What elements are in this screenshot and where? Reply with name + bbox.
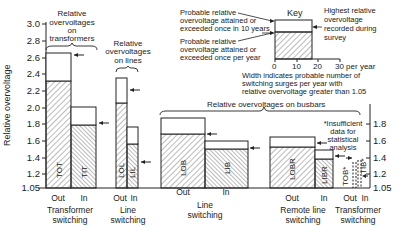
svg-text:overvoltages: overvoltages (105, 47, 150, 56)
heading-transformers: Relative overvoltages on transformers (46, 9, 97, 50)
svg-text:1.6: 1.6 (373, 135, 386, 146)
svg-text:2.4: 2.4 (27, 68, 40, 79)
y-axis-label: Relative overvoltage (2, 64, 12, 146)
svg-text:recorded during: recorded during (324, 24, 377, 33)
svg-text:switching: switching (111, 215, 146, 225)
svg-text:1.4: 1.4 (373, 152, 386, 163)
svg-text:Out: Out (176, 187, 190, 197)
heading-lines: Relative overvoltages on lines (105, 39, 150, 72)
bar-LIB: LIB (205, 141, 260, 188)
svg-text:1.4: 1.4 (27, 152, 40, 163)
svg-text:1.6: 1.6 (27, 135, 40, 146)
svg-text:Highest relative: Highest relative (324, 6, 376, 15)
svg-text:2.8: 2.8 (27, 35, 40, 46)
heading-busbars: Relative overvoltages on busbars (160, 100, 360, 115)
svg-text:exceeded once in 10 years: exceeded once in 10 years (180, 24, 270, 33)
svg-text:TIT: TIT (80, 166, 89, 178)
svg-text:1.8: 1.8 (373, 118, 386, 129)
svg-text:Transformer: Transformer (47, 205, 93, 215)
svg-text:Key: Key (287, 8, 303, 18)
svg-text:LIB: LIB (223, 162, 232, 174)
svg-text:20: 20 (313, 62, 322, 71)
svg-text:1.2: 1.2 (373, 168, 386, 179)
svg-text:analysis: analysis (329, 143, 356, 152)
svg-text:overvoltage: overvoltage (324, 15, 363, 24)
svg-text:LOL: LOL (117, 162, 126, 178)
svg-text:1.05: 1.05 (373, 182, 392, 193)
svg-text:2.0: 2.0 (27, 102, 40, 113)
svg-text:1.05: 1.05 (22, 182, 41, 193)
svg-text:2.2: 2.2 (27, 85, 40, 96)
svg-text:30 per year: 30 per year (335, 62, 376, 71)
bar-TOB: TOB* (341, 162, 356, 188)
svg-text:TIB*: TIB* (359, 158, 368, 174)
svg-text:10: 10 (292, 62, 301, 71)
svg-text:Out: Out (285, 193, 299, 203)
svg-text:LOBR: LOBR (288, 158, 297, 180)
svg-text:TOB*: TOB* (341, 167, 350, 186)
svg-text:Relative: Relative (58, 9, 87, 18)
svg-text:Transformer: Transformer (335, 205, 381, 215)
chart: 3.0 2.8 2.6 2.4 2.2 2.0 1.8 1.6 1.4 1.2 … (0, 0, 405, 232)
svg-text:Out: Out (51, 193, 65, 203)
svg-text:1.2: 1.2 (27, 168, 40, 179)
svg-text:LIL: LIL (128, 166, 137, 178)
bar-LIL: LIL (127, 127, 151, 188)
svg-text:In: In (80, 193, 87, 203)
svg-text:survey: survey (324, 33, 346, 42)
svg-text:Out: Out (343, 193, 357, 203)
svg-text:2.6: 2.6 (27, 52, 40, 63)
x-labels: Out In Transformer switching Out In Line… (47, 187, 381, 225)
svg-text:In: In (130, 193, 137, 203)
svg-text:Out: Out (113, 193, 127, 203)
svg-text:relative overvoltage greater t: relative overvoltage greater than 1.05 (242, 87, 366, 96)
svg-text:Relative overvoltages on busba: Relative overvoltages on busbars (207, 100, 325, 109)
svg-text:1.8: 1.8 (27, 118, 40, 129)
svg-text:Line: Line (120, 205, 136, 215)
legend-key: Key 0 10 20 30 per year Width indicates … (180, 6, 377, 96)
svg-text:LIBR: LIBR (320, 166, 329, 184)
svg-text:3.0: 3.0 (27, 18, 40, 29)
svg-text:In: In (320, 193, 327, 203)
svg-text:TOT: TOT (55, 162, 64, 178)
svg-text:exceeded once per year: exceeded once per year (180, 53, 261, 62)
svg-text:In: In (361, 193, 368, 203)
svg-text:In: In (222, 187, 229, 197)
svg-text:switching: switching (188, 210, 223, 220)
svg-text:switching: switching (286, 215, 321, 225)
insufficient-note: *Insufficient data for statistical analy… (324, 119, 364, 152)
y-axis-right: 1.8 1.6 1.4 1.2 1.05 (366, 104, 392, 193)
svg-text:Remote line: Remote line (280, 205, 326, 215)
svg-text:Line: Line (197, 200, 213, 210)
bar-TIT: TIT (71, 107, 109, 188)
svg-text:switching: switching (53, 215, 88, 225)
svg-text:0: 0 (272, 62, 277, 71)
svg-text:switching: switching (341, 215, 376, 225)
svg-text:on lines: on lines (114, 56, 142, 65)
svg-text:LOB: LOB (179, 160, 188, 176)
